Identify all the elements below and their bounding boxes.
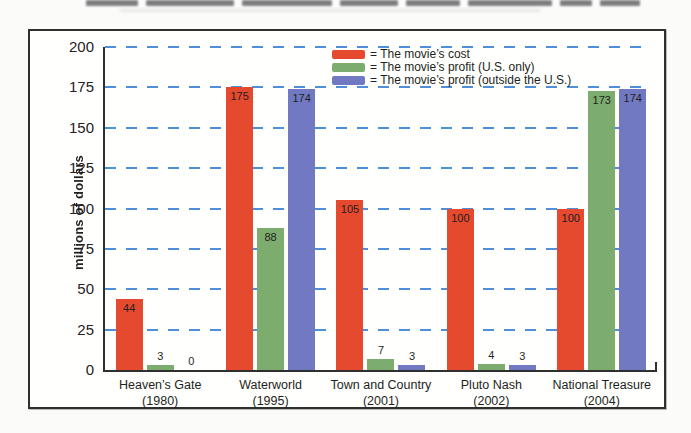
legend-swatch [332, 50, 365, 59]
bar-group: 17588174Waterworld(1995) [226, 47, 315, 370]
y-tick-label: 25 [30, 321, 94, 339]
bar-group: 100173174National Treasure(2004) [557, 47, 646, 370]
bar: 105 [336, 200, 363, 370]
bar-value-label: 100 [557, 212, 584, 225]
y-tick-label: 125 [30, 159, 94, 177]
x-tick-label: National Treasure(2004) [527, 377, 677, 410]
bar: 174 [288, 89, 315, 370]
bar-value-label: 3 [398, 350, 425, 363]
bar-value-label: 7 [367, 344, 394, 357]
bar-value-label: 100 [447, 212, 474, 225]
bar-group: 10573Town and Country(2001) [336, 47, 425, 370]
y-tick-label: 200 [30, 38, 94, 56]
bar-value-label: 174 [619, 92, 646, 105]
bar: 88 [257, 228, 284, 370]
bar: 7 [367, 359, 394, 370]
x-axis-line [103, 370, 657, 372]
y-tick-label: 175 [30, 78, 94, 96]
bar-group: 10043Pluto Nash(2002) [447, 47, 536, 370]
legend: = The movie’s cost= The movie’s profit (… [332, 48, 571, 87]
legend-label: = The movie’s profit (outside the U.S.) [370, 74, 571, 87]
y-tick-label: 75 [30, 240, 94, 258]
bar-value-label: 88 [257, 231, 284, 244]
bar-value-label: 174 [288, 92, 315, 105]
legend-item: = The movie’s profit (outside the U.S.) [332, 74, 571, 87]
bar: 173 [588, 91, 615, 370]
bar: 3 [147, 365, 174, 370]
bar-value-label: 3 [509, 350, 536, 363]
bar: 100 [557, 209, 584, 371]
bar-value-label: 3 [147, 350, 174, 363]
bar: 3 [509, 365, 536, 370]
bar: 4 [478, 364, 505, 370]
bar-value-label: 44 [116, 302, 143, 315]
bar-value-label: 4 [478, 349, 505, 362]
bar-value-label: 173 [588, 94, 615, 107]
bar-value-label: 0 [178, 355, 205, 368]
bar-value-label: 105 [336, 203, 363, 216]
bar: 175 [226, 87, 253, 370]
chart-frame: millions of dollars 20017515012510075502… [28, 29, 666, 409]
bar: 100 [447, 209, 474, 371]
bar: 3 [398, 365, 425, 370]
y-tick-label: 100 [30, 200, 94, 218]
bar: 174 [619, 89, 646, 370]
bar-group: 4430Heaven’s Gate(1980) [116, 47, 205, 370]
bar: 44 [116, 299, 143, 370]
legend-swatch [332, 76, 365, 85]
bar-groups: 4430Heaven’s Gate(1980)17588174Waterworl… [105, 47, 657, 370]
y-tick-label: 50 [30, 280, 94, 298]
y-tick-label: 150 [30, 119, 94, 137]
bar-value-label: 175 [226, 90, 253, 103]
legend-swatch [332, 63, 365, 72]
